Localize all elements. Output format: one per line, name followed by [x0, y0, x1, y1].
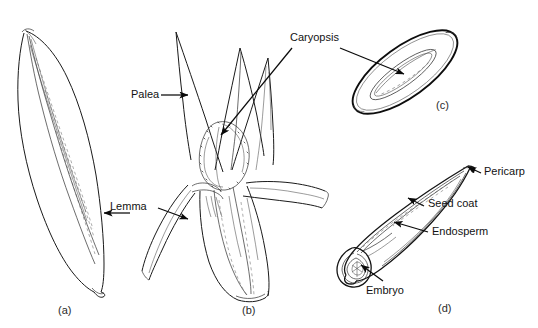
label-embryo: Embryo	[366, 285, 404, 296]
leader-caryopsis-b	[221, 48, 292, 135]
panel-c-drawing	[340, 15, 470, 129]
figure-canvas: Palea Lemma Caryopsis Pericarp Seed coat…	[0, 0, 538, 328]
panel-letter-a: (a)	[58, 305, 71, 316]
leader-endosperm	[394, 222, 428, 232]
label-endosperm: Endosperm	[432, 226, 488, 237]
panel-letter-b: (b)	[242, 305, 255, 316]
panel-b-drawing	[142, 32, 328, 302]
leader-caryopsis-c	[340, 48, 404, 74]
figure-linework	[0, 0, 538, 328]
panel-letter-c: (c)	[436, 100, 449, 111]
label-palea: Palea	[131, 89, 159, 100]
panel-a-drawing	[18, 29, 105, 297]
label-pericarp: Pericarp	[484, 166, 525, 177]
label-lemma: Lemma	[110, 201, 147, 212]
label-seed-coat: Seed coat	[428, 198, 478, 209]
panel-letter-d: (d)	[438, 303, 451, 314]
label-caryopsis: Caryopsis	[290, 32, 339, 43]
leader-lines	[104, 48, 481, 281]
